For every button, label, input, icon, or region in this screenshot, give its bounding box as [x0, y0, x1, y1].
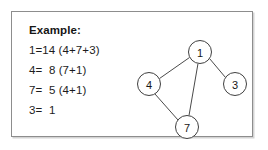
graph-node-7[interactable]: 7	[176, 116, 199, 139]
graph-node-3[interactable]: 3	[224, 73, 247, 96]
example-line-4: 3= 1	[29, 105, 133, 117]
graph-diagram: 1437	[130, 25, 264, 149]
graph-panel: 1437	[130, 25, 264, 149]
graph-edge-4-7	[155, 94, 178, 120]
example-line-2: 4= 8 (7+1)	[29, 65, 133, 77]
graph-node-4[interactable]: 4	[138, 73, 161, 96]
example-heading: Example:	[29, 25, 133, 37]
graph-edge-group	[155, 58, 226, 121]
graph-node-label-1: 1	[197, 47, 203, 59]
example-panel: Example: 1=14 (4+7+3) 4= 8 (7+1) 7= 5 (4…	[29, 25, 133, 129]
example-line-3: 7= 5 (4+1)	[29, 85, 133, 97]
example-line-1: 1=14 (4+7+3)	[29, 45, 133, 57]
graph-node-label-4: 4	[146, 79, 152, 91]
graph-edge-1-4	[160, 58, 190, 79]
graph-edge-1-3	[210, 59, 226, 78]
figure-frame: Example: 1=14 (4+7+3) 4= 8 (7+1) 7= 5 (4…	[11, 11, 253, 137]
figure-root: Example: 1=14 (4+7+3) 4= 8 (7+1) 7= 5 (4…	[0, 0, 268, 150]
graph-edge-1-7	[189, 64, 198, 116]
graph-node-label-7: 7	[184, 122, 190, 134]
graph-node-label-3: 3	[232, 79, 238, 91]
graph-node-1[interactable]: 1	[189, 41, 212, 64]
graph-node-group: 1437	[138, 41, 247, 139]
